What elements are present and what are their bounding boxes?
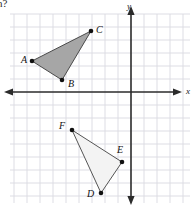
- vertex-dot-e: [120, 160, 125, 165]
- vertex-label-f: F: [59, 121, 65, 131]
- x-axis: [4, 88, 182, 95]
- triangle-def: [72, 130, 122, 193]
- vertex-label-b: B: [68, 79, 74, 89]
- vertex-dot-f: [70, 128, 75, 133]
- vertex-dot-d: [99, 191, 104, 196]
- vertex-label-d: D: [87, 189, 94, 199]
- coordinate-plane-figure: n?: [0, 0, 193, 205]
- vertex-label-a: A: [21, 55, 27, 65]
- vertex-dot-c: [89, 29, 94, 34]
- vertex-dot-a: [30, 59, 35, 64]
- y-axis: [127, 6, 134, 205]
- y-axis-label: y: [127, 2, 131, 11]
- vertex-label-e: E: [117, 145, 123, 155]
- vertex-label-c: C: [96, 25, 103, 35]
- triangle-abc: [32, 31, 91, 80]
- x-axis-label: x: [186, 87, 190, 96]
- vertex-dot-b: [60, 78, 65, 83]
